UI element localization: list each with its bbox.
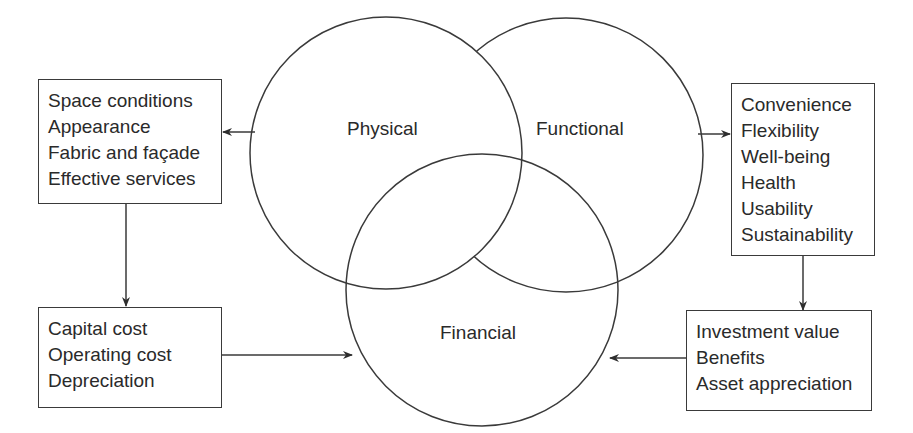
box-item: Usability: [741, 196, 874, 222]
box-item: Fabric and façade: [48, 140, 221, 166]
box-item: Health: [741, 170, 874, 196]
box-item: Operating cost: [48, 342, 221, 368]
functional-label: Functional: [536, 118, 624, 140]
physical-label: Physical: [347, 118, 418, 140]
box-item: Capital cost: [48, 316, 221, 342]
box-item: Investment value: [696, 319, 871, 345]
box-item: Flexibility: [741, 118, 874, 144]
financial-label: Financial: [440, 322, 516, 344]
value-box: Investment value Benefits Asset apprecia…: [686, 310, 872, 411]
physical-attributes-box: Space conditions Appearance Fabric and f…: [38, 79, 222, 204]
box-item: Benefits: [696, 345, 871, 371]
box-item: Effective services: [48, 166, 221, 192]
box-item: Asset appreciation: [696, 371, 871, 397]
costs-box: Capital cost Operating cost Depreciation: [38, 307, 222, 408]
functional-attributes-box: Convenience Flexibility Well-being Healt…: [731, 83, 875, 256]
financial-circle: [346, 154, 618, 426]
box-item: Space conditions: [48, 88, 221, 114]
physical-circle: [250, 17, 522, 289]
box-item: Depreciation: [48, 368, 221, 394]
box-item: Appearance: [48, 114, 221, 140]
box-item: Convenience: [741, 92, 874, 118]
box-item: Sustainability: [741, 222, 874, 248]
box-item: Well-being: [741, 144, 874, 170]
